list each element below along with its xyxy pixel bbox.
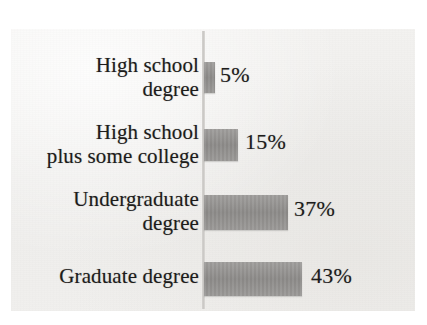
category-label: High school plus some college (47, 121, 199, 168)
value-label: 37% (294, 198, 335, 220)
category-label: High school degree (96, 54, 199, 101)
bar-segment (204, 195, 288, 230)
value-label: 15% (245, 131, 286, 153)
value-label: 43% (311, 265, 352, 287)
bar-segment (204, 262, 302, 296)
bar-chart-screenshot: High school degree 5% High school plus s… (0, 0, 427, 325)
bar-segment (204, 129, 238, 161)
category-label: Undergraduate degree (73, 188, 199, 235)
category-label: Graduate degree (59, 265, 199, 289)
bar-segment (204, 62, 215, 93)
value-label: 5% (220, 64, 250, 86)
